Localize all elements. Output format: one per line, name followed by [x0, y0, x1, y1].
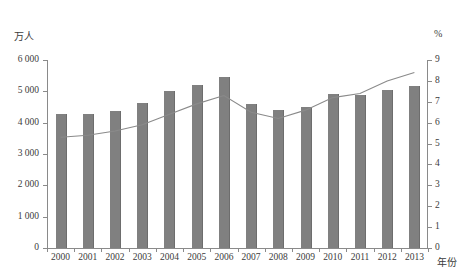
y-axis-left-tick-label: 1 000 — [18, 212, 39, 222]
y-axis-right-tick-label: 4 — [435, 159, 440, 169]
y-axis-right-tick — [428, 144, 432, 145]
x-axis-tick — [374, 248, 375, 252]
y-axis-left-tick-label: 2 000 — [18, 180, 39, 190]
y-axis-left-tick — [43, 60, 47, 61]
y-axis-right-tick — [428, 164, 432, 165]
y-axis-unit-label-left: 万人 — [14, 28, 34, 43]
y-axis-left-tick — [43, 185, 47, 186]
y-axis-right-tick-label: 8 — [435, 76, 440, 86]
x-axis-tick-label: 2013 — [397, 253, 431, 263]
bar — [382, 90, 393, 248]
y-axis-left-tick-label: 3 000 — [18, 149, 39, 159]
y-axis-right-tick — [428, 81, 432, 82]
y-axis-left-line — [47, 60, 48, 248]
y-axis-right-tick — [428, 185, 432, 186]
x-axis-tick — [292, 248, 293, 252]
bar — [83, 114, 94, 248]
y-axis-left-tick-label: 0 — [34, 243, 39, 253]
x-axis-tick — [401, 248, 402, 252]
x-axis-tick — [428, 248, 429, 252]
bar — [137, 103, 148, 248]
y-axis-right-tick-label: 3 — [435, 180, 440, 190]
y-axis-right-tick-label: 7 — [435, 97, 440, 107]
bar — [273, 110, 284, 248]
y-axis-right-tick — [428, 123, 432, 124]
y-axis-left-tick — [43, 154, 47, 155]
plot-area: 01 0002 0003 0004 0005 0006 000 01234567… — [47, 60, 428, 248]
y-axis-right-line — [427, 60, 428, 248]
x-axis-tick — [346, 248, 347, 252]
x-axis-tick — [210, 248, 211, 252]
y-axis-right-tick — [428, 102, 432, 103]
y-axis-left-tick — [43, 217, 47, 218]
x-axis-tick — [47, 248, 48, 252]
y-axis-left-tick-label: 5 000 — [18, 86, 39, 96]
y-axis-right-tick-label: 2 — [435, 201, 440, 211]
x-axis-tick — [129, 248, 130, 252]
bar — [246, 104, 257, 248]
y-axis-right-tick-label: 6 — [435, 118, 440, 128]
bar — [56, 114, 67, 248]
y-axis-left-tick — [43, 91, 47, 92]
bar — [164, 91, 175, 248]
bar — [110, 111, 121, 248]
y-axis-left-tick-label: 6 000 — [18, 55, 39, 65]
y-axis-unit-label-right: % — [434, 28, 442, 39]
x-axis-tick — [238, 248, 239, 252]
line-series — [47, 60, 428, 248]
y-axis-right-tick-label: 0 — [435, 243, 440, 253]
bar — [301, 107, 312, 248]
bar — [219, 77, 230, 248]
y-axis-left-tick — [43, 123, 47, 124]
y-axis-right-tick-label: 5 — [435, 139, 440, 149]
x-axis-tick — [156, 248, 157, 252]
y-axis-right-tick-label: 1 — [435, 222, 440, 232]
bar — [328, 94, 339, 248]
x-axis-tick — [319, 248, 320, 252]
y-axis-left-tick-label: 4 000 — [18, 118, 39, 128]
bar — [192, 85, 203, 248]
x-axis-tick — [265, 248, 266, 252]
x-axis-unit-label: 年份 — [437, 254, 457, 269]
y-axis-right-tick — [428, 227, 432, 228]
y-axis-right-tick — [428, 206, 432, 207]
bar — [409, 86, 420, 248]
y-axis-right-tick-label: 9 — [435, 55, 440, 65]
x-axis-tick — [74, 248, 75, 252]
bar — [355, 95, 366, 248]
x-axis-tick — [183, 248, 184, 252]
y-axis-right-tick — [428, 60, 432, 61]
chart-figure: 万人 % 年份 01 0002 0003 0004 0005 0006 000 … — [0, 0, 468, 276]
x-axis-tick — [101, 248, 102, 252]
